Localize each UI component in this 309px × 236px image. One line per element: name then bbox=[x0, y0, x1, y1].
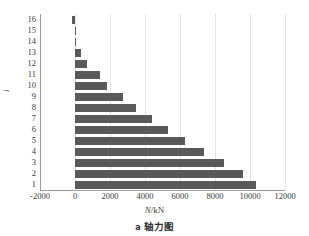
x-tick-8000: 8000 bbox=[207, 192, 224, 201]
bar-story-5 bbox=[75, 137, 185, 145]
bar-story-16 bbox=[72, 16, 75, 24]
bar-row bbox=[40, 14, 285, 25]
x-axis-title: N/kN bbox=[0, 205, 309, 215]
y-tick-13: 13 bbox=[28, 48, 37, 57]
bar-story-4 bbox=[75, 148, 204, 156]
bar-story-11 bbox=[75, 71, 100, 79]
y-tick-2: 2 bbox=[32, 169, 36, 178]
bar-row bbox=[40, 80, 285, 91]
y-tick-11: 11 bbox=[28, 70, 36, 79]
gridline-12000 bbox=[285, 14, 286, 190]
bar-row bbox=[40, 102, 285, 113]
bar-story-8 bbox=[75, 104, 136, 112]
y-axis-title: i bbox=[1, 89, 11, 92]
bar-story-3 bbox=[75, 159, 224, 167]
bar-row bbox=[40, 69, 285, 80]
y-tick-6: 6 bbox=[32, 125, 36, 134]
bar-row bbox=[40, 36, 285, 47]
y-tick-4: 4 bbox=[32, 147, 36, 156]
y-tick-3: 3 bbox=[32, 158, 36, 167]
bar-row bbox=[40, 135, 285, 146]
axial-force-bar-chart: 16151413121110987654321 i -2000020004000… bbox=[0, 0, 309, 236]
y-tick-5: 5 bbox=[32, 136, 36, 145]
y-tick-1: 1 bbox=[32, 180, 36, 189]
bar-story-10 bbox=[75, 82, 107, 90]
y-tick-15: 15 bbox=[28, 26, 37, 35]
bar-story-6 bbox=[75, 126, 168, 134]
bar-row bbox=[40, 113, 285, 124]
x-tick-12000: 12000 bbox=[274, 192, 295, 201]
y-tick-7: 7 bbox=[32, 114, 36, 123]
bar-story-15 bbox=[75, 27, 76, 35]
bar-row bbox=[40, 124, 285, 135]
bar-story-2 bbox=[75, 170, 243, 178]
bar-row bbox=[40, 146, 285, 157]
bar-story-7 bbox=[75, 115, 152, 123]
x-tick-0: 0 bbox=[73, 192, 77, 201]
bar-story-12 bbox=[75, 60, 87, 68]
y-tick-12: 12 bbox=[28, 59, 37, 68]
x-tick--2000: -2000 bbox=[30, 192, 50, 201]
bar-story-1 bbox=[75, 181, 256, 189]
x-axis-title-unit: /kN bbox=[151, 205, 165, 215]
x-tick-10000: 10000 bbox=[239, 192, 260, 201]
y-tick-16: 16 bbox=[28, 15, 37, 24]
bar-row bbox=[40, 179, 285, 190]
y-tick-10: 10 bbox=[28, 81, 37, 90]
bar-row bbox=[40, 91, 285, 102]
y-tick-14: 14 bbox=[28, 37, 37, 46]
y-tick-9: 9 bbox=[32, 92, 36, 101]
x-tick-4000: 4000 bbox=[137, 192, 154, 201]
y-tick-8: 8 bbox=[32, 103, 36, 112]
caption-text: 轴力图 bbox=[144, 221, 174, 232]
x-tick-2000: 2000 bbox=[102, 192, 119, 201]
figure-caption: a轴力图 bbox=[0, 219, 309, 233]
plot-area bbox=[40, 14, 285, 190]
y-axis-tick-labels: 16151413121110987654321 bbox=[14, 14, 38, 190]
bar-row bbox=[40, 47, 285, 58]
bar-story-13 bbox=[75, 49, 81, 57]
bar-story-14 bbox=[75, 38, 76, 46]
bar-row bbox=[40, 157, 285, 168]
bar-row bbox=[40, 58, 285, 69]
bar-row bbox=[40, 25, 285, 36]
bar-series bbox=[40, 14, 285, 190]
x-tick-6000: 6000 bbox=[172, 192, 189, 201]
bar-story-9 bbox=[75, 93, 123, 101]
bar-row bbox=[40, 168, 285, 179]
x-axis-tick-labels: -2000020004000600080001000012000 bbox=[40, 192, 285, 204]
caption-index: a bbox=[135, 223, 140, 232]
